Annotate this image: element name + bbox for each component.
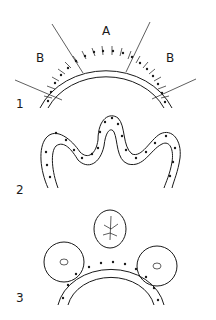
label-region-b-left: B <box>36 52 44 64</box>
panel-2-epithelium <box>41 116 180 188</box>
diagram-canvas <box>0 0 216 320</box>
label-region-b-right: B <box>166 52 174 64</box>
panel-3-epithelium <box>44 210 177 305</box>
panel-number-2: 2 <box>16 184 24 196</box>
vesicle <box>94 210 126 248</box>
label-region-a: A <box>102 25 110 37</box>
panel-number-3: 3 <box>16 292 24 304</box>
panel-number-1: 1 <box>16 98 24 110</box>
left-rosette <box>44 242 84 282</box>
right-rosette <box>137 246 177 286</box>
